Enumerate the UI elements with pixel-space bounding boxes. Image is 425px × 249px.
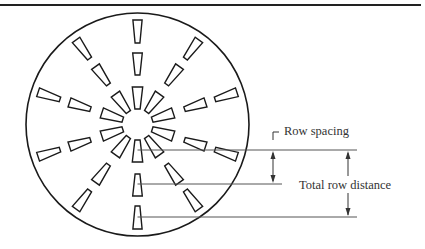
plate-diagram [0,0,425,249]
slot-row-3 [182,37,203,61]
slot-row-3 [37,145,62,161]
slot-row-1 [132,87,142,109]
slot-row-1 [142,134,163,158]
slot-row-2 [68,135,92,151]
slot-group [37,20,239,229]
slot-row-2 [183,135,207,151]
row-spacing-arrowhead-up [271,151,276,159]
row-spacing-bracket [273,132,279,140]
slot-row-3 [72,37,93,61]
row-spacing-dimension [271,132,280,183]
slot-row-3 [37,88,62,104]
slot-row-2 [163,64,184,87]
slot-row-1 [132,140,142,162]
slot-row-1 [100,124,124,141]
slot-row-3 [72,188,93,212]
plate-outline [26,13,249,236]
slot-row-1 [111,134,132,158]
slot-row-3 [214,145,239,161]
total-arrowhead-down [346,208,351,216]
slot-row-3 [214,88,239,104]
slot-row-2 [133,174,143,196]
slot-row-1 [151,108,175,125]
slot-row-1 [111,91,132,115]
slot-row-3 [182,188,203,212]
slot-row-2 [68,98,92,114]
slot-row-1 [151,124,175,141]
total-arrowhead-up [346,151,351,159]
slot-row-2 [183,98,207,114]
slot-row-1 [100,108,124,125]
slot-row-2 [133,53,143,75]
row-spacing-label: Row spacing [284,125,349,138]
slot-row-2 [163,162,184,185]
slot-row-1 [142,91,163,115]
slot-row-2 [92,162,113,185]
total-row-distance-label: Total row distance [299,179,391,192]
row-spacing-arrowhead-down [271,175,276,183]
slot-row-3 [133,20,142,43]
slot-row-2 [92,64,113,87]
